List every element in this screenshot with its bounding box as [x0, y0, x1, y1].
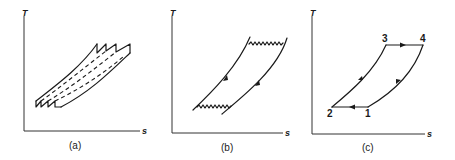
panel-a-caption: (a)	[69, 140, 81, 151]
panel-b-y-label: T	[170, 8, 177, 18]
panel-c-arrow-3-4	[400, 43, 406, 48]
panel-a: T s (a)	[22, 8, 147, 151]
panel-a-right-boundary	[61, 53, 130, 107]
panel-b-top-isotherm	[249, 42, 283, 45]
panel-c-path-2-3	[332, 45, 386, 107]
panel-c-point-4-label: 4	[420, 33, 426, 44]
panel-c-arrow-2-3	[358, 76, 363, 80]
panel-c-arrow-1-2	[349, 105, 355, 110]
panel-a-x-label: s	[142, 126, 147, 136]
panel-b: T s (b)	[170, 8, 290, 153]
panel-c-point-3-label: 3	[382, 33, 388, 44]
panel-c-caption: (c)	[362, 142, 374, 153]
panel-a-y-label: T	[22, 8, 29, 18]
panel-c-x-label: s	[427, 129, 432, 139]
panel-b-left-curve	[193, 37, 250, 110]
panel-b-right-curve	[222, 38, 287, 114]
panel-a-top-staircase	[97, 44, 130, 53]
panel-a-dashed-curve-1	[41, 51, 106, 101]
panel-a-dashed-curve-3	[55, 56, 124, 101]
panel-c-path-4-1	[368, 45, 423, 107]
panel-c: T s (c) 3 4 2 1	[310, 8, 432, 153]
panel-b-caption: (b)	[221, 142, 233, 153]
panel-a-bottom-staircase	[36, 101, 61, 107]
figure-canvas: T s (a) T s (b) T	[0, 0, 455, 160]
panel-b-bottom-isotherm	[197, 105, 231, 108]
panel-c-point-2-label: 2	[327, 108, 333, 119]
panel-c-point-1-label: 1	[365, 108, 371, 119]
panel-a-left-boundary	[36, 44, 97, 101]
panel-c-y-label: T	[310, 8, 317, 18]
panel-b-x-label: s	[285, 128, 290, 138]
